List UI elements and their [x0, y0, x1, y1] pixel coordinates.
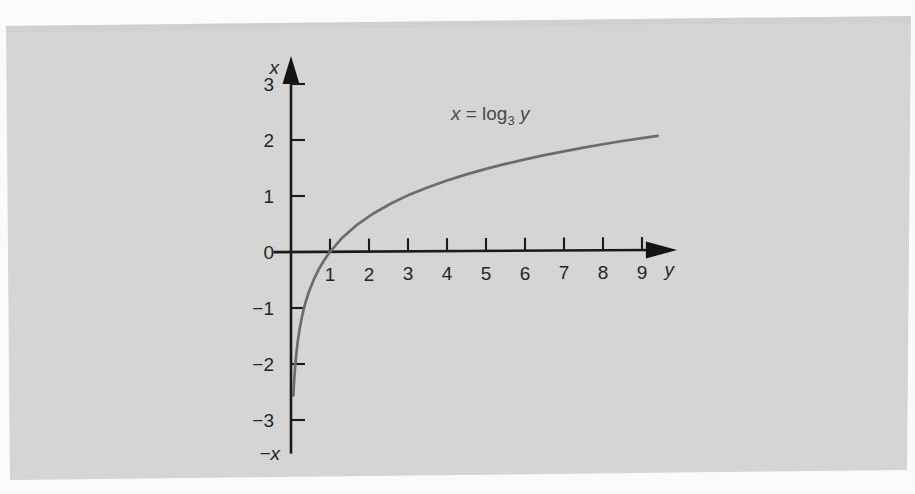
horizontal-tick-label: 1: [325, 264, 336, 285]
horizontal-axis-arrow-icon: [646, 242, 677, 259]
horizontal-tick-label: 5: [481, 263, 492, 284]
horizontal-tick-label: 3: [403, 263, 414, 284]
equation-arg: y: [518, 103, 531, 124]
svg-text:x = log3 y: x = log3 y: [450, 103, 531, 128]
vertical-axis-negative-label: −x: [259, 443, 281, 464]
vertical-tick-label: −2: [252, 354, 274, 375]
vertical-tick-label: 2: [263, 130, 274, 151]
equation-base: 3: [507, 113, 514, 128]
figure-root: −3−2−10123 123456789 x y −x x = log3 y: [0, 0, 915, 494]
vertical-axis-tick-labels: −3−2−10123: [252, 74, 274, 431]
equation-func: log: [482, 103, 507, 124]
horizontal-tick-label: 9: [637, 262, 648, 283]
vertical-tick-label: 1: [263, 186, 274, 207]
horizontal-tick-label: 7: [559, 262, 570, 283]
vertical-tick-label: −3: [252, 410, 274, 431]
horizontal-tick-label: 6: [520, 263, 531, 284]
horizontal-tick-label: 8: [598, 262, 609, 283]
horizontal-tick-label: 4: [442, 263, 453, 284]
log-graph: −3−2−10123 123456789 x y −x x = log3 y: [0, 0, 915, 494]
vertical-tick-label: −1: [252, 298, 274, 319]
equation-annotation: x = log3 y: [450, 103, 531, 128]
vertical-axis-label: x: [269, 57, 281, 78]
horizontal-tick-label: 2: [364, 264, 375, 285]
vertical-tick-label: 0: [263, 242, 274, 263]
horizontal-axis-label: y: [663, 259, 676, 280]
horizontal-axis-tick-labels: 123456789: [325, 262, 648, 285]
vertical-axis-arrow-icon: [283, 56, 300, 84]
equation-equals: =: [466, 103, 477, 124]
